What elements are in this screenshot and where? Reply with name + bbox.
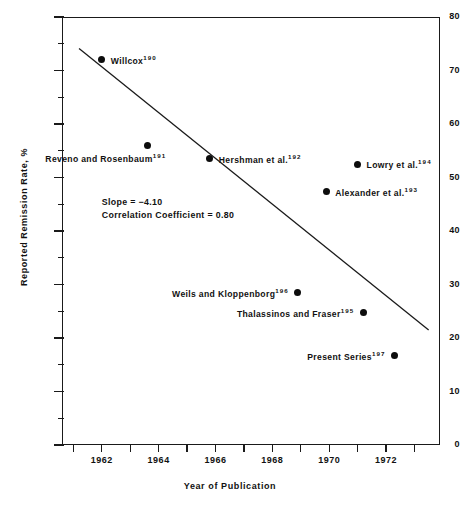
y-tick-major (54, 337, 64, 338)
y-tick-label: 0 (410, 439, 460, 449)
x-tick (215, 445, 216, 452)
y-tick-minor (58, 204, 64, 205)
x-tick (73, 445, 74, 452)
y-tick-label: 40 (410, 225, 460, 235)
y-tick-label: 70 (410, 65, 460, 75)
y-tick-major (54, 177, 64, 178)
x-tick (158, 445, 159, 452)
correlation-text: Correlation Coefficient = 0.80 (102, 209, 234, 222)
x-tick (357, 445, 358, 452)
statistics-annotation: Slope = −4.10 Correlation Coefficient = … (102, 196, 234, 222)
data-point-label: Willcox190 (111, 54, 157, 66)
x-tick-label: 1968 (242, 455, 302, 465)
plot-area (62, 17, 440, 445)
slope-text: Slope = −4.10 (102, 196, 234, 209)
y-tick-major (54, 70, 64, 71)
x-tick (300, 445, 301, 452)
x-tick (329, 445, 330, 452)
y-axis-title: Reported Remission Rate, % (19, 117, 29, 317)
data-point-label: Thalassinos and Fraser195 (237, 307, 354, 319)
x-tick-label: 1964 (129, 455, 189, 465)
data-point-label: Alexander et al.193 (335, 186, 418, 198)
y-tick-major (54, 284, 64, 285)
y-tick-minor (58, 364, 64, 365)
data-point (354, 161, 361, 168)
x-tick-label: 1970 (299, 455, 359, 465)
y-tick-major (54, 391, 64, 392)
x-axis-title: Year of Publication (0, 481, 460, 491)
data-point-label: Weils and Kloppenborg196 (172, 287, 289, 299)
y-tick-major (54, 123, 64, 124)
y-tick-minor (58, 418, 64, 419)
x-tick (186, 445, 187, 452)
x-tick (385, 445, 386, 452)
y-tick-major (54, 444, 64, 445)
data-point-label: Lowry et al.194 (367, 158, 432, 170)
y-tick-label: 50 (410, 172, 460, 182)
data-point-label: Present Series197 (307, 350, 385, 362)
y-tick-minor (58, 43, 64, 44)
y-tick-minor (58, 311, 64, 312)
y-tick-minor (58, 150, 64, 151)
x-tick (272, 445, 273, 452)
x-tick (243, 445, 244, 452)
x-tick-label: 1972 (356, 455, 416, 465)
y-tick-label: 30 (410, 279, 460, 289)
x-tick (101, 445, 102, 452)
x-tick-label: 1966 (185, 455, 245, 465)
x-tick (130, 445, 131, 452)
data-point (144, 142, 151, 149)
x-tick (414, 445, 415, 452)
y-tick-minor (58, 257, 64, 258)
chart-figure: 01020304050607080 1962196419661968197019… (0, 0, 460, 505)
y-tick-label: 80 (410, 11, 460, 21)
y-tick-minor (58, 97, 64, 98)
data-point-label: Hershman et al.192 (219, 153, 302, 165)
y-tick-label: 20 (410, 332, 460, 342)
y-tick-major (54, 16, 64, 17)
x-tick-label: 1962 (72, 455, 132, 465)
data-point-label: Reveno and Rosenbaum191 (45, 152, 166, 164)
y-tick-label: 10 (410, 386, 460, 396)
y-tick-label: 60 (410, 118, 460, 128)
y-tick-major (54, 230, 64, 231)
